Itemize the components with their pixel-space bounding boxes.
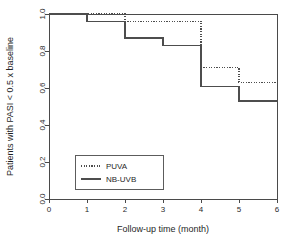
y-tick-label: 0.2 xyxy=(38,156,47,168)
x-axis-ticks: 0123456 xyxy=(47,199,280,214)
x-tick-label: 2 xyxy=(123,205,128,214)
y-tick-label: 0.6 xyxy=(38,82,47,94)
y-tick-label: 0.8 xyxy=(38,45,47,57)
chart-legend: PUVANB-UVB xyxy=(75,155,163,189)
y-tick-label: 1.0 xyxy=(38,8,47,20)
x-tick-label: 6 xyxy=(275,205,280,214)
y-tick-label: 0.0 xyxy=(38,193,47,205)
series-line-puva xyxy=(49,14,277,82)
legend-label: NB-UVB xyxy=(106,175,136,184)
x-tick-label: 1 xyxy=(85,205,90,214)
x-tick-label: 3 xyxy=(161,205,166,214)
x-tick-label: 0 xyxy=(47,205,52,214)
series-layer xyxy=(49,14,277,101)
y-axis-title: Patients with PASI < 0.5 x baseline xyxy=(5,37,15,176)
y-axis-ticks: 0.00.20.40.60.81.0 xyxy=(38,8,50,205)
x-axis-title: Follow-up time (month) xyxy=(117,224,209,234)
y-tick-label: 0.4 xyxy=(38,119,47,131)
survival-curve-chart: 0.00.20.40.60.81.0 0123456 PUVANB-UVB Fo… xyxy=(0,0,286,247)
legend-label: PUVA xyxy=(106,162,128,171)
x-tick-label: 4 xyxy=(199,205,204,214)
x-tick-label: 5 xyxy=(237,205,242,214)
chart-container: 0.00.20.40.60.81.0 0123456 PUVANB-UVB Fo… xyxy=(0,0,286,247)
series-line-nb-uvb xyxy=(49,14,277,101)
